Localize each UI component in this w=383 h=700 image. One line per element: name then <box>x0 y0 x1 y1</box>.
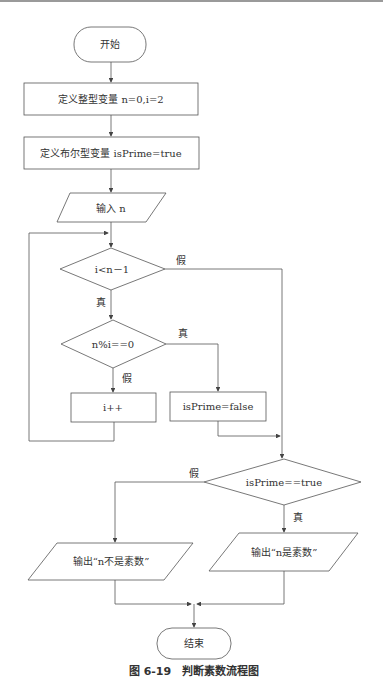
set-false-label: isPrime=false <box>183 401 254 412</box>
output-prime-label: 输出“n是素数” <box>251 546 318 558</box>
flowchart: 开始 定义整型变量 n=0,i=2 定义布尔型变量 isPrime=true 输… <box>0 0 383 700</box>
start-label: 开始 <box>100 38 120 50</box>
increment-process: i++ <box>71 393 156 422</box>
loop-condition-decision: i<n－1 <box>60 248 165 290</box>
end-label: 结束 <box>184 637 204 649</box>
set-false-process: isPrime=false <box>170 392 266 421</box>
mod-true-label: 真 <box>178 327 188 339</box>
mod-condition-decision: n%i==0 <box>61 320 166 368</box>
end-terminal: 结束 <box>157 628 231 659</box>
init-int-process: 定义整型变量 n=0,i=2 <box>24 83 198 115</box>
loop-true-label: 真 <box>96 296 106 308</box>
mod-false-label: 假 <box>122 372 132 384</box>
init-bool-label: 定义布尔型变量 isPrime=true <box>40 147 181 159</box>
output-not-prime-label: 输出“n不是素数” <box>73 555 150 567</box>
start-terminal: 开始 <box>74 27 146 62</box>
output-not-prime-parallelogram: 输出“n不是素数” <box>28 543 193 580</box>
prime-condition-label: isPrime==true <box>246 477 322 488</box>
mod-condition-label: n%i==0 <box>92 339 134 350</box>
output-prime-parallelogram: 输出“n是素数” <box>209 533 358 571</box>
init-int-label: 定义整型变量 n=0,i=2 <box>58 93 163 105</box>
prime-condition-decision: isPrime==true <box>204 459 361 505</box>
input-parallelogram: 输入 n <box>57 193 166 222</box>
prime-false-label: 假 <box>189 467 199 479</box>
init-bool-process: 定义布尔型变量 isPrime=true <box>24 137 199 169</box>
loop-condition-label: i<n－1 <box>95 264 129 275</box>
loop-false-label: 假 <box>176 254 186 266</box>
figure-caption: 图 6-19 判断素数流程图 <box>129 664 259 678</box>
increment-label: i++ <box>103 402 123 413</box>
input-label: 输入 n <box>96 202 126 214</box>
prime-true-label: 真 <box>293 511 303 523</box>
